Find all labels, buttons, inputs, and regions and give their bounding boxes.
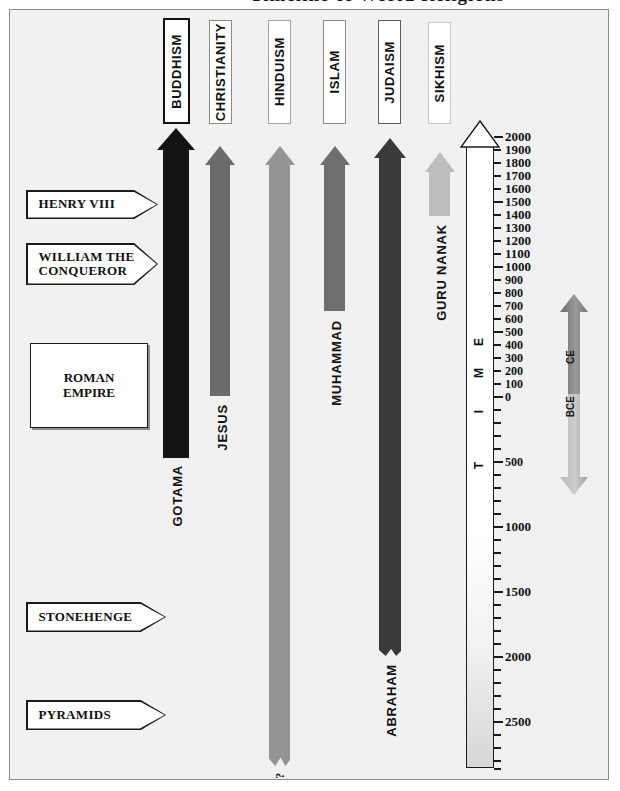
religion-label-hinduism[interactable]: HINDUISM: [268, 20, 291, 124]
axis-tick-label: 0: [505, 391, 511, 403]
axis-tick: [494, 695, 501, 697]
axis-tick-label: 400: [505, 339, 523, 351]
axis-tick: [494, 461, 503, 463]
religion-bar-sikhism[interactable]: [429, 167, 450, 216]
founder-label-abraham: ABRAHAM: [384, 664, 399, 737]
axis-tick: [494, 227, 501, 229]
event-callout-pyramids[interactable]: PYRAMIDS: [26, 700, 166, 730]
founder-label-gotama: GOTAMA: [170, 465, 185, 527]
axis-tick: [494, 136, 503, 138]
axis-tick: [494, 253, 501, 255]
axis-tick-label: 900: [505, 274, 523, 286]
axis-tick: [494, 240, 501, 242]
axis-tick: [494, 539, 501, 541]
axis-tick: [494, 370, 501, 372]
axis-tick-label: 700: [505, 300, 523, 312]
axis-tick: [494, 721, 503, 723]
time-axis-letter-e: E: [472, 338, 486, 346]
axis-tick: [494, 305, 501, 307]
religion-bar-islam[interactable]: [324, 160, 345, 311]
axis-tick: [494, 630, 501, 632]
axis-tick: [494, 474, 501, 476]
axis-tick: [494, 422, 501, 424]
axis-tick: [494, 292, 501, 294]
timeline-diagram: Timeline of World Religions BUDDHISMGOTA…: [0, 0, 620, 791]
axis-tick: [494, 669, 501, 671]
axis-tick: [494, 565, 501, 567]
religion-label-text: HINDUISM: [272, 37, 287, 106]
founder-label-jesus: JESUS: [215, 404, 230, 451]
religion-label-christianity[interactable]: CHRISTIANITY: [209, 20, 232, 124]
axis-tick: [494, 682, 501, 684]
time-axis-letter-i: I: [472, 410, 486, 413]
religion-label-text: CHRISTIANITY: [213, 23, 228, 121]
religion-label-text: ISLAM: [327, 50, 342, 93]
axis-tick: [494, 656, 503, 658]
axis-tick-label: 500: [505, 456, 523, 468]
event-callout-label: WILLIAM THECONQUEROR: [28, 250, 135, 278]
religion-label-buddhism[interactable]: BUDDHISM: [163, 18, 190, 124]
axis-tick: [494, 487, 501, 489]
axis-tick: [494, 409, 501, 411]
axis-tick: [494, 591, 503, 593]
event-callout-body: WILLIAM THECONQUEROR: [28, 245, 157, 284]
axis-tick: [494, 734, 501, 736]
axis-tick: [494, 768, 501, 770]
event-callout-label: STONEHENGE: [28, 610, 133, 624]
religion-bar-judaism[interactable]: [379, 153, 401, 656]
axis-tick-label: 2500: [505, 715, 531, 728]
axis-tick: [494, 617, 501, 619]
axis-tick: [494, 435, 501, 437]
axis-tick: [494, 643, 501, 645]
axis-tick: [494, 448, 501, 450]
axis-tick: [494, 344, 501, 346]
event-callout-stonehenge[interactable]: STONEHENGE: [26, 602, 166, 632]
axis-tick: [494, 201, 503, 203]
axis-tick: [494, 175, 501, 177]
axis-tick-label: 1000: [505, 260, 531, 273]
diagram-frame: BUDDHISMGOTAMACHRISTIANITYJESUSHINDUISM?…: [9, 9, 609, 780]
event-callout-roman-empire[interactable]: ROMANEMPIRE: [30, 343, 148, 428]
era-arrow: [558, 292, 590, 497]
founder-label-guru-nanak: GURU NANAK: [434, 224, 449, 321]
axis-tick-label: 600: [505, 313, 523, 325]
event-callout-label: ROMANEMPIRE: [63, 371, 115, 400]
religion-bar-buddhism[interactable]: [163, 143, 189, 458]
religion-label-sikhism[interactable]: SIKHISM: [428, 22, 451, 124]
axis-tick-label: 800: [505, 287, 523, 299]
axis-tick: [494, 552, 501, 554]
religion-label-islam[interactable]: ISLAM: [323, 20, 346, 124]
founder-label-?: ?: [273, 772, 288, 779]
time-axis-bar: [466, 144, 494, 768]
axis-tick: [494, 279, 501, 281]
axis-tick: [494, 188, 501, 190]
axis-tick: [494, 604, 501, 606]
event-callout-william-the-conqueror[interactable]: WILLIAM THECONQUEROR: [26, 243, 158, 285]
axis-tick: [494, 500, 501, 502]
event-callout-body: HENRY VIII: [28, 192, 157, 218]
axis-tick-label: 100: [505, 378, 523, 390]
religion-label-judaism[interactable]: JUDAISM: [378, 20, 401, 124]
time-axis-letter-t: T: [472, 462, 486, 469]
event-callout-label: HENRY VIII: [28, 197, 116, 211]
axis-tick: [494, 318, 501, 320]
event-callout-henry-viii[interactable]: HENRY VIII: [26, 190, 158, 219]
axis-tick: [494, 357, 501, 359]
axis-tick-label: 200: [505, 365, 523, 377]
page-title-text: Timeline of World Religions: [250, 0, 505, 6]
axis-tick-label: 1500: [505, 585, 531, 598]
time-axis-letter-m: M: [472, 368, 486, 378]
axis-tick: [494, 266, 503, 268]
axis-tick: [494, 760, 501, 762]
page-title-sliver: Timeline of World Religions: [0, 0, 620, 9]
religion-bar-hinduism[interactable]: [269, 160, 290, 766]
axis-tick-label: 1000: [505, 520, 531, 533]
religion-label-text: JUDAISM: [382, 41, 397, 104]
religion-label-text: BUDDHISM: [169, 34, 184, 109]
axis-tick-label: 2000: [505, 650, 531, 663]
religion-bar-christianity[interactable]: [210, 160, 230, 396]
time-axis-arrow-head-icon: [460, 120, 500, 148]
axis-tick-label: 500: [505, 326, 523, 338]
axis-tick: [494, 578, 501, 580]
axis-tick: [494, 149, 501, 151]
